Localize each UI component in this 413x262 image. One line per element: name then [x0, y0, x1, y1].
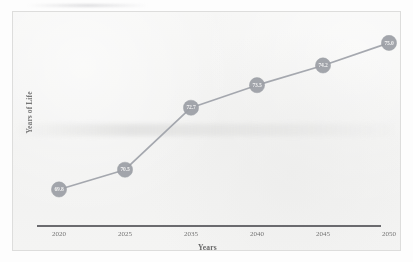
x-axis-tick-label: 2025: [118, 230, 132, 238]
plot-area: 69.870.572.773.574.275.0: [59, 26, 389, 212]
data-point-label: 75.0: [384, 40, 394, 46]
series-line-years-of-life: [59, 43, 389, 190]
data-point-label: 74.2: [318, 62, 328, 68]
data-point-label: 69.8: [54, 186, 64, 192]
data-point-label: 73.5: [252, 82, 262, 88]
data-point-markers: 69.870.572.773.574.275.0: [51, 35, 396, 197]
x-axis-title: Years: [13, 243, 401, 251]
scan-artifact-streak: [28, 4, 148, 7]
data-point-label: 70.5: [120, 166, 130, 172]
x-axis-tick-label: 2035: [184, 230, 198, 238]
scanned-page: Years of Life 69.870.572.773.574.275.0 2…: [0, 0, 413, 262]
x-axis-tick-label: 2020: [52, 230, 66, 238]
x-axis-baseline: [37, 225, 381, 227]
line-chart-svg: 69.870.572.773.574.275.0: [59, 26, 389, 212]
x-axis-tick-label: 2050: [382, 230, 396, 238]
x-axis-tick-label: 2045: [316, 230, 330, 238]
x-axis-tick-labels: 202020252035204020452050: [59, 230, 389, 242]
chart-frame: Years of Life 69.870.572.773.574.275.0 2…: [12, 11, 401, 251]
y-axis-title: Years of Life: [25, 73, 34, 153]
data-point-label: 72.7: [186, 104, 196, 110]
x-axis-tick-label: 2040: [250, 230, 264, 238]
